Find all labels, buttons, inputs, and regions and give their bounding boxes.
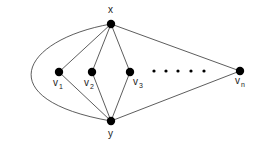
label-y: y xyxy=(108,128,113,139)
ellipsis-dot xyxy=(189,69,192,72)
node-v3 xyxy=(126,68,134,76)
ellipsis-dot xyxy=(202,69,205,72)
label-v3: v3 xyxy=(133,76,143,89)
graph-diagram: xyv1v2v3vn xyxy=(0,0,263,144)
edge-x-v1 xyxy=(59,24,111,72)
edge-x-vn xyxy=(111,24,240,71)
edge-y-vn xyxy=(111,71,240,121)
edge-x-y-curved xyxy=(31,24,111,121)
edge-y-v3 xyxy=(111,72,130,121)
edge-x-v2 xyxy=(92,24,111,72)
node-x xyxy=(107,20,115,28)
edge-x-v3 xyxy=(111,24,130,72)
label-v2: v2 xyxy=(84,77,94,90)
node-v2 xyxy=(88,68,96,76)
ellipsis-dot xyxy=(152,69,155,72)
graph-canvas: xyv1v2v3vn xyxy=(0,0,263,144)
node-v1 xyxy=(55,68,63,76)
label-vn: vn xyxy=(235,75,245,88)
node-vn xyxy=(236,67,244,75)
nodes-group xyxy=(55,20,244,125)
label-x: x xyxy=(108,4,113,15)
node-y xyxy=(107,117,115,125)
label-v1: v1 xyxy=(53,77,63,90)
edge-y-v2 xyxy=(92,72,111,121)
ellipsis-dot xyxy=(176,69,179,72)
ellipsis-dots xyxy=(152,69,205,72)
ellipsis-dot xyxy=(164,69,167,72)
labels-group: xyv1v2v3vn xyxy=(53,4,245,139)
